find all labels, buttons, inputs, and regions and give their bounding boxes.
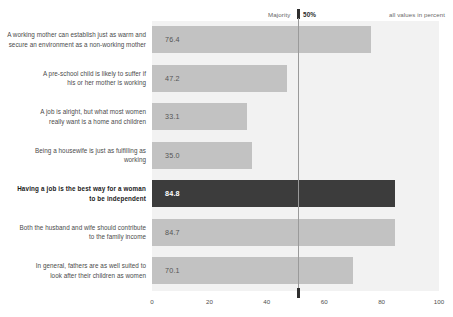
- category-label-line: to the family income: [0, 232, 146, 241]
- bar-row[interactable]: 76.4: [152, 26, 439, 53]
- majority-reference-line: [298, 18, 299, 295]
- category-label: In general, fathers are as well suited t…: [0, 261, 146, 279]
- majority-annotation-label: Majority: [268, 10, 290, 19]
- bar-row[interactable]: 35.0: [152, 142, 439, 169]
- category-label-line: Both the husband and wife should contrib…: [0, 223, 146, 232]
- category-label: Being a housewife is just as fulfilling …: [0, 146, 146, 164]
- x-axis-tick-label: 80: [378, 298, 385, 305]
- bar-row[interactable]: 84.7: [152, 219, 439, 246]
- category-label-line: Having a job is the best way for a woman: [0, 184, 146, 193]
- category-label-column: A working mother can establish just as w…: [0, 21, 146, 291]
- category-label-line: A pre-school child is likely to suffer i…: [0, 69, 146, 78]
- bar-value-label: 33.1: [165, 112, 180, 121]
- category-label-line: In general, fathers are as well suited t…: [0, 261, 146, 270]
- bar-value-label: 70.1: [165, 266, 180, 275]
- bar-value-label: 47.2: [165, 74, 180, 83]
- bar[interactable]: [152, 26, 371, 53]
- category-label-line: working: [0, 155, 146, 164]
- category-label: A job is alright, but what most womenrea…: [0, 107, 146, 125]
- category-label: Both the husband and wife should contrib…: [0, 223, 146, 241]
- category-label-line: A job is alright, but what most women: [0, 107, 146, 116]
- bar-value-label: 84.7: [165, 228, 180, 237]
- category-label-line: his or her mother is working: [0, 78, 146, 87]
- category-label: A pre-school child is likely to suffer i…: [0, 69, 146, 87]
- category-label-line: A working mother can establish just as w…: [0, 30, 146, 39]
- x-axis-tick-label: 20: [206, 298, 213, 305]
- category-label: A working mother can establish just as w…: [0, 30, 146, 48]
- unit-note: all values in percent: [389, 10, 445, 19]
- bar-row[interactable]: 70.1: [152, 257, 439, 284]
- bar-row[interactable]: 84.8: [152, 180, 439, 207]
- x-axis-tick-label: 40: [263, 298, 270, 305]
- x-axis-tick-label: 100: [434, 298, 444, 305]
- category-label: Having a job is the best way for a woman…: [0, 184, 146, 202]
- category-label-line: secure an environment as a non-working m…: [0, 40, 146, 49]
- bar-value-label: 76.4: [165, 35, 180, 44]
- bar-row[interactable]: 33.1: [152, 103, 439, 130]
- majority-annotation-value: 50%: [303, 10, 316, 19]
- bar-chart: Majority 50% all values in percent A wor…: [0, 0, 453, 317]
- category-label-line: really want is a home and children: [0, 117, 146, 126]
- bar-value-label: 35.0: [165, 151, 180, 160]
- category-label-line: Being a housewife is just as fulfilling …: [0, 146, 146, 155]
- category-label-line: look after their children as women: [0, 271, 146, 280]
- x-axis-tick-label: 0: [150, 298, 153, 305]
- bar-value-label: 84.8: [165, 189, 180, 198]
- bar[interactable]: [152, 180, 395, 207]
- bar[interactable]: [152, 219, 395, 246]
- x-axis: 020406080100: [152, 293, 439, 313]
- bar[interactable]: [152, 257, 353, 284]
- bar-row[interactable]: 47.2: [152, 65, 439, 92]
- x-axis-tick-label: 60: [321, 298, 328, 305]
- category-label-line: to be independent: [0, 194, 146, 203]
